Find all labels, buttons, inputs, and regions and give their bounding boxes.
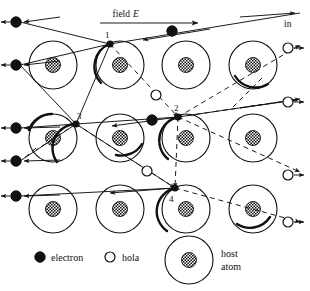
hole-marker — [283, 97, 293, 107]
field-label-symbol: E — [132, 9, 139, 19]
impact-ionization-figure: field E in 1 2 3 4 electron hola host at… — [0, 0, 310, 291]
electron-marker — [147, 115, 157, 125]
incoming-label-group: in — [284, 19, 292, 29]
legend-hole-item: hola — [105, 252, 140, 263]
electron-marker — [11, 156, 21, 166]
legend-electron-icon — [35, 252, 45, 262]
collision-label-4: 4 — [169, 194, 174, 204]
hole-marker — [283, 43, 293, 53]
collision-dot-4 — [171, 184, 178, 191]
electron-marker — [11, 17, 21, 27]
legend-host-line2: atom — [221, 261, 241, 272]
collision-label-3: 3 — [77, 111, 82, 121]
collision-dot-3 — [72, 120, 79, 127]
collision-dot-1 — [106, 40, 113, 47]
electron-marker — [11, 60, 21, 70]
legend-host-atom-nucleus — [182, 253, 197, 268]
incoming-label: in — [284, 19, 292, 29]
collision-label-1: 1 — [105, 30, 110, 40]
legend-hole-label: hola — [122, 252, 140, 263]
hole-marker — [151, 90, 161, 100]
collision-label-2: 2 — [174, 103, 179, 113]
field-label-text: field — [113, 9, 131, 19]
electron-marker — [11, 123, 21, 133]
hole-marker — [283, 170, 293, 180]
legend-electron-label: electron — [51, 252, 83, 263]
legend-hole-icon — [105, 252, 115, 262]
electron-marker — [11, 191, 21, 201]
legend-electron-item: electron — [35, 252, 83, 263]
electron-marker — [167, 26, 177, 36]
legend-host-line1: host — [221, 248, 238, 259]
hole-marker — [283, 217, 293, 227]
collision-dot-2 — [174, 113, 181, 120]
hole-marker — [142, 166, 152, 176]
